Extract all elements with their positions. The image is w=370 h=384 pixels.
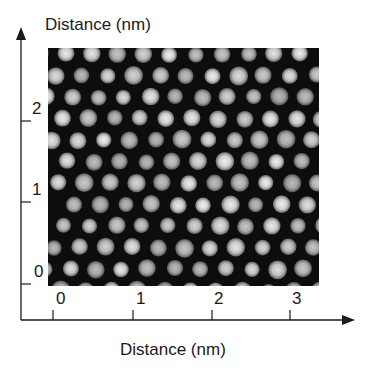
stm-spot (128, 281, 147, 286)
y-tick-label-1: 1 (32, 180, 41, 200)
stm-spot (135, 48, 153, 63)
y-tick-label-0: 0 (34, 262, 43, 282)
stm-spot (50, 174, 66, 190)
x-axis-arrow-icon (342, 315, 355, 325)
stm-spot (119, 197, 134, 212)
stm-spot (241, 152, 259, 170)
stm-spot (189, 152, 207, 170)
stm-spot (183, 109, 200, 126)
x-tick-label-1: 1 (136, 289, 145, 309)
stm-spot (170, 197, 187, 214)
stm-spot (167, 260, 183, 276)
stm-spot (127, 174, 145, 192)
stm-spot (216, 152, 235, 171)
stm-spot (282, 68, 298, 84)
stm-spot (48, 132, 61, 150)
stm-spot (209, 111, 227, 129)
stm-spot (163, 153, 180, 170)
stm-spot (107, 110, 122, 125)
stm-spot (313, 111, 319, 128)
stm-spot (294, 153, 310, 169)
stm-image (48, 48, 319, 286)
stm-spot (233, 282, 251, 286)
stm-spot (108, 48, 126, 63)
stm-spot (227, 132, 243, 148)
stm-spot (207, 283, 224, 287)
stm-spot (167, 88, 183, 104)
stm-spot (283, 174, 301, 192)
stm-spot (87, 261, 105, 279)
stm-spot (255, 240, 271, 256)
stm-spot (178, 68, 194, 84)
stm-spot (227, 238, 245, 256)
stm-spot (82, 218, 97, 233)
stm-spot (71, 238, 88, 255)
stm-spot (229, 67, 248, 86)
stm-spot (303, 131, 319, 148)
stm-spot (66, 197, 82, 213)
stm-spot (173, 130, 192, 149)
stm-spot (113, 262, 129, 278)
stm-spot (161, 48, 177, 63)
stm-spot (299, 196, 316, 213)
stm-spot (48, 88, 55, 105)
stm-spot (100, 68, 115, 83)
stm-spot (202, 240, 218, 256)
stm-spot (59, 152, 75, 168)
stm-spot (218, 260, 234, 276)
stm-spot (305, 239, 319, 256)
stm-spot (102, 174, 119, 191)
stm-spot (74, 68, 90, 84)
stm-spot (250, 131, 268, 149)
stm-spot (48, 262, 53, 277)
stm-spot (206, 175, 223, 192)
stm-spot (194, 89, 211, 106)
stm-spot (219, 88, 236, 105)
stm-spot (152, 67, 169, 84)
stm-spot (294, 259, 312, 277)
stm-spot (192, 261, 208, 277)
stm-spot (111, 153, 128, 170)
stm-spot (200, 132, 216, 148)
stm-spot (83, 48, 100, 62)
stm-spot (138, 259, 156, 277)
stm-spot (245, 262, 260, 277)
stm-spot (315, 216, 319, 234)
x-axis-title: Distance (nm) (120, 340, 226, 360)
stm-spot (297, 88, 314, 105)
stm-spot (175, 239, 194, 258)
stm-spot (262, 111, 279, 128)
stm-spot (157, 110, 174, 127)
stm-spots (48, 48, 319, 286)
stm-spot (124, 66, 143, 85)
stm-spot (77, 282, 95, 286)
stm-spot (230, 173, 249, 192)
stm-spot (56, 218, 71, 233)
stm-spot (237, 218, 254, 235)
stm-spot (258, 175, 273, 190)
stm-spot (51, 281, 70, 286)
stm-spot (221, 195, 239, 213)
x-tick-label-0: 0 (56, 289, 65, 309)
stm-spot (48, 48, 49, 62)
stm-spot (48, 240, 62, 255)
stm-spot (91, 90, 107, 106)
stm-spot (309, 67, 319, 83)
stm-spot (63, 261, 79, 277)
stm-spot (150, 240, 167, 257)
stm-spot (268, 260, 287, 279)
stm-spot (188, 48, 203, 63)
stm-spot (124, 238, 141, 255)
stm-spot (214, 48, 231, 63)
stm-spot (139, 154, 155, 170)
stm-spot (311, 282, 319, 286)
stm-spot (156, 282, 174, 286)
stm-spot (181, 175, 198, 192)
stm-spot (265, 48, 282, 62)
stm-spot (132, 110, 148, 126)
stm-spot (290, 218, 305, 233)
stm-spot (205, 68, 221, 84)
stm-spot (187, 218, 203, 234)
stm-spot (288, 110, 305, 127)
stm-spot (211, 216, 230, 235)
